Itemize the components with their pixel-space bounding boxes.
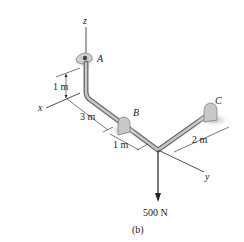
z-axis-label: z bbox=[82, 15, 87, 26]
x-axis-label: x bbox=[37, 102, 43, 113]
y-axis-label: y bbox=[204, 171, 210, 182]
y-axis: y bbox=[158, 150, 210, 182]
point-a-label: A bbox=[96, 53, 104, 64]
dimension-vertical: 1 m bbox=[53, 68, 80, 98]
dimension-segment-b-elbow-label: 1 m bbox=[113, 139, 129, 150]
dimension-vertical-label: 1 m bbox=[53, 81, 69, 92]
force-arrow bbox=[155, 151, 161, 202]
point-c-label: C bbox=[215, 95, 222, 106]
force-label: 500 N bbox=[143, 207, 168, 218]
z-axis: z bbox=[82, 15, 87, 56]
dimension-segment-c-label: 2 m bbox=[192, 134, 208, 145]
x-axis: x bbox=[37, 93, 80, 113]
dimension-segment-ab: 3 m bbox=[67, 99, 108, 130]
dimension-segment-ab-label: 3 m bbox=[80, 111, 96, 122]
pipe bbox=[86, 63, 206, 150]
figure-caption: (b) bbox=[132, 224, 144, 236]
point-b-label: B bbox=[133, 107, 139, 118]
pipe-assembly-figure: z A B C x bbox=[0, 0, 244, 242]
support-b bbox=[118, 117, 130, 135]
